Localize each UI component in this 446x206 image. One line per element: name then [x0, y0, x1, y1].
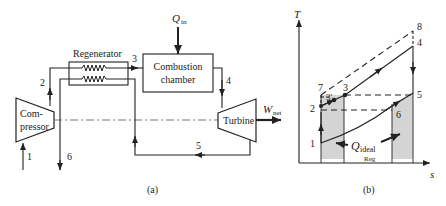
turbine-label: Turbine: [223, 115, 255, 126]
combustion-label-1: Combustion: [154, 61, 203, 72]
y-axis-label: T: [294, 8, 301, 20]
ts-label-7: 7: [318, 82, 323, 93]
work-output: W net: [256, 103, 282, 120]
q-ideal-sub-subscript: Reg: [364, 155, 376, 163]
dashed-7-8: [321, 31, 413, 95]
state-label-5: 5: [196, 140, 201, 151]
state-label-6: 6: [67, 151, 72, 162]
compressor: Com- pressor: [16, 98, 54, 142]
shaded-area-right: [392, 93, 413, 159]
regenerator: Regenerator: [69, 48, 128, 85]
q-in-symbol: Q: [172, 12, 180, 24]
q-ideal-symbol: Q: [351, 139, 360, 153]
combustion-label-2: chamber: [161, 74, 196, 85]
state-label-3: 3: [132, 53, 137, 64]
ts-label-6: 6: [396, 109, 401, 120]
combustion-chamber: Combustion chamber: [143, 54, 213, 92]
state-label-1: 1: [27, 151, 32, 162]
regenerator-label: Regenerator: [73, 48, 123, 59]
state-label-4: 4: [226, 75, 231, 86]
heat-input: Q in: [172, 12, 187, 54]
ts-label-3: 3: [343, 82, 348, 93]
state-label-2: 2: [40, 77, 45, 88]
w-net-subscript: net: [273, 109, 282, 117]
ts-label-5: 5: [417, 89, 422, 100]
state-point-2: [319, 104, 323, 108]
q-in-subscript: in: [181, 18, 187, 26]
compressor-label-1: Com-: [20, 108, 43, 119]
q-ideal-subscript: ideal: [360, 145, 376, 154]
x-axis-label: s: [430, 168, 434, 180]
ts-label-3prime: 3′: [326, 92, 333, 102]
turbine: Turbine: [218, 99, 256, 142]
ts-label-1: 1: [310, 138, 315, 149]
caption-b: (b): [363, 184, 375, 196]
flow-line-4: [213, 68, 222, 108]
figure-a-schematic: Com- pressor 1 2 Regenerator 3 Combustio…: [16, 12, 282, 196]
ts-label-2: 2: [310, 103, 315, 114]
compressor-label-2: pressor: [20, 121, 50, 132]
caption-a: (a): [147, 184, 158, 196]
figure-b-ts-diagram: T s: [294, 8, 434, 196]
ts-label-8: 8: [417, 21, 422, 32]
state-point-3: [343, 93, 348, 98]
ts-label-4: 4: [417, 37, 422, 48]
w-net-symbol: W: [263, 103, 273, 115]
q-ideal-reg-annotation: Q ideal Reg: [336, 134, 400, 163]
